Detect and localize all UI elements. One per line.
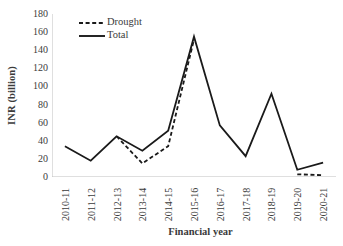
- y-tick-label: 0: [18, 172, 48, 182]
- y-tick-label: 100: [18, 81, 48, 91]
- y-axis-title-label: INR (billion): [6, 66, 17, 125]
- data-series-group: [65, 37, 323, 176]
- chart-legend: DroughtTotal: [78, 16, 198, 42]
- dashed-line-swatch: [78, 18, 106, 28]
- legend-label: Total: [106, 30, 128, 41]
- x-axis-title: Financial year: [58, 226, 343, 237]
- y-tick-label: 80: [18, 100, 48, 110]
- legend-label: Drought: [106, 17, 142, 28]
- legend-entry: Total: [78, 29, 198, 42]
- y-tick-label: 20: [18, 154, 48, 164]
- x-tick-label-text: 2010-11: [59, 188, 70, 221]
- series-line-drought: [297, 174, 323, 175]
- x-tick-label-text: 2019-20: [292, 188, 303, 221]
- y-tick-label: 160: [18, 27, 48, 37]
- y-tick-label: 180: [18, 9, 48, 19]
- x-tick-label: 2011-12: [84, 177, 98, 225]
- line-chart-figure: INR (billion) 020406080100120140160180 2…: [0, 0, 343, 246]
- x-tick-label: 2012-13: [110, 177, 124, 225]
- y-tick-label: 120: [18, 63, 48, 73]
- x-tick-label: 2019-20: [290, 177, 304, 225]
- y-tick-label: 60: [18, 118, 48, 128]
- x-axis-tick-labels: 2010-112011-122012-132013-142014-152015-…: [52, 177, 336, 227]
- x-tick-label-text: 2013-14: [137, 188, 148, 221]
- solid-line-swatch: [78, 31, 106, 41]
- y-tick-label: 140: [18, 45, 48, 55]
- x-tick-label: 2020-21: [316, 177, 330, 225]
- x-tick-label-text: 2011-12: [85, 188, 96, 221]
- series-line-total: [65, 37, 323, 170]
- legend-entry: Drought: [78, 16, 198, 29]
- x-tick-label-text: 2016-17: [214, 188, 225, 221]
- x-tick-label-text: 2012-13: [111, 188, 122, 221]
- x-tick-label-text: 2018-19: [266, 188, 277, 221]
- x-tick-label: 2016-17: [213, 177, 227, 225]
- x-tick-label: 2018-19: [264, 177, 278, 225]
- x-tick-label: 2010-11: [58, 177, 72, 225]
- x-tick-label-text: 2015-16: [189, 188, 200, 221]
- x-tick-label-text: 2014-15: [163, 188, 174, 221]
- x-tick-label-text: 2017-18: [240, 188, 251, 221]
- x-tick-label-text: 2020-21: [318, 188, 329, 221]
- y-axis-tick-labels: 020406080100120140160180: [18, 14, 48, 177]
- x-tick-label: 2013-14: [135, 177, 149, 225]
- series-line-drought: [117, 39, 194, 163]
- x-tick-label: 2014-15: [161, 177, 175, 225]
- x-tick-label: 2017-18: [239, 177, 253, 225]
- x-tick-label: 2015-16: [187, 177, 201, 225]
- y-tick-label: 40: [18, 136, 48, 146]
